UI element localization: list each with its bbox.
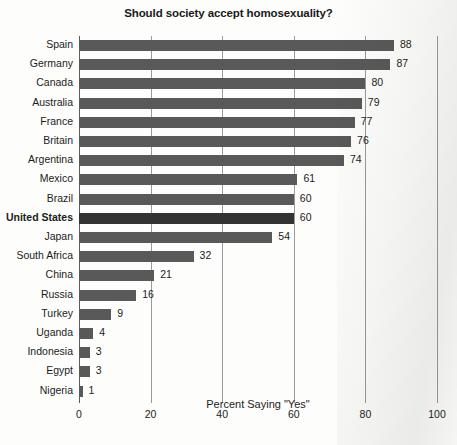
bar-row: China21 — [79, 266, 437, 285]
category-label: Australia — [32, 96, 73, 108]
bar-value-label: 61 — [303, 172, 315, 184]
category-label: Nigeria — [40, 384, 73, 396]
bar — [79, 366, 90, 377]
bar — [79, 174, 297, 185]
category-label: United States — [6, 211, 73, 223]
bar-value-label: 77 — [361, 115, 373, 127]
bar-value-label: 76 — [357, 134, 369, 146]
bar — [79, 98, 362, 109]
bar — [79, 347, 90, 358]
bar — [79, 59, 390, 70]
bar-row: Russia16 — [79, 286, 437, 305]
bar-row: France77 — [79, 113, 437, 132]
category-label: Indonesia — [27, 345, 73, 357]
plot-area: 020406080100Spain88Germany87Canada80Aust… — [79, 36, 437, 403]
bar-value-label: 3 — [96, 364, 102, 376]
bar-row: Britain76 — [79, 132, 437, 151]
bar-value-label: 80 — [371, 76, 383, 88]
bar-row: Germany87 — [79, 55, 437, 74]
bar — [79, 117, 355, 128]
bar — [79, 290, 136, 301]
category-label: Britain — [43, 134, 73, 146]
chart-title: Should society accept homosexuality? — [0, 7, 457, 19]
bar-value-label: 21 — [160, 268, 172, 280]
bar-value-label: 79 — [368, 96, 380, 108]
bar-value-label: 1 — [89, 384, 95, 396]
bar-row: Spain88 — [79, 36, 437, 55]
bar-value-label: 4 — [99, 326, 105, 338]
bar-row: Argentina74 — [79, 151, 437, 170]
bar — [79, 213, 294, 224]
category-label: Canada — [36, 76, 73, 88]
bar-row: South Africa32 — [79, 247, 437, 266]
bar-value-label: 54 — [278, 230, 290, 242]
category-label: Mexico — [40, 172, 73, 184]
bar-row: Indonesia3 — [79, 343, 437, 362]
category-label: Spain — [46, 38, 73, 50]
bar-value-label: 16 — [142, 288, 154, 300]
bar — [79, 232, 272, 243]
bar — [79, 328, 93, 339]
category-label: Brazil — [47, 192, 73, 204]
chart-figure: Should society accept homosexuality? 020… — [0, 0, 457, 445]
bar — [79, 136, 351, 147]
bar — [79, 270, 154, 281]
bar-value-label: 32 — [200, 249, 212, 261]
bar — [79, 40, 394, 51]
category-label: Japan — [44, 230, 73, 242]
bar — [79, 78, 365, 89]
bar — [79, 251, 194, 262]
category-label: Uganda — [36, 326, 73, 338]
bar-row: Mexico61 — [79, 170, 437, 189]
bar-value-label: 74 — [350, 153, 362, 165]
bar-row: Egypt3 — [79, 362, 437, 381]
gridline-100 — [437, 36, 438, 403]
x-axis-label: Percent Saying "Yes" — [79, 398, 437, 410]
category-label: Turkey — [41, 307, 73, 319]
category-label: Argentina — [28, 153, 73, 165]
bar-value-label: 87 — [396, 57, 408, 69]
bar-value-label: 3 — [96, 345, 102, 357]
bar-value-label: 60 — [300, 192, 312, 204]
bar — [79, 309, 111, 320]
bar-value-label: 60 — [300, 211, 312, 223]
category-label: France — [40, 115, 73, 127]
bar-row: Canada80 — [79, 74, 437, 93]
bar-row: Australia79 — [79, 94, 437, 113]
category-label: Egypt — [46, 364, 73, 376]
category-label: South Africa — [16, 249, 73, 261]
bar-row: Uganda4 — [79, 324, 437, 343]
bar-value-label: 88 — [400, 38, 412, 50]
bar — [79, 155, 344, 166]
bar-row: Brazil60 — [79, 190, 437, 209]
bar — [79, 194, 294, 205]
category-label: Russia — [41, 288, 73, 300]
bar-row: Turkey9 — [79, 305, 437, 324]
bar-row: Japan54 — [79, 228, 437, 247]
bar — [79, 386, 83, 397]
category-label: China — [46, 268, 73, 280]
bar-row: United States60 — [79, 209, 437, 228]
category-label: Germany — [30, 57, 73, 69]
bar-value-label: 9 — [117, 307, 123, 319]
